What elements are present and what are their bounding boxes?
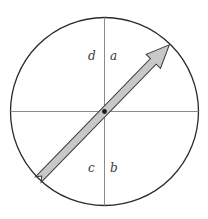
diagram-canvas [0,0,208,219]
quadrant-label-a: a [110,50,117,62]
quadrant-diagram: d a c b [0,0,208,219]
quadrant-label-c: c [88,162,95,174]
quadrant-label-d: d [88,50,96,62]
pivot-dot [102,109,107,114]
quadrant-label-b: b [110,162,118,174]
